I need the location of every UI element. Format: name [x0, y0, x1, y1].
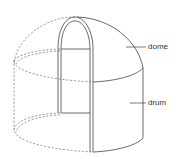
drum-bottom-hidden-ellipse [14, 113, 93, 152]
drum-top-front-arc [93, 68, 143, 82]
drum-bottom-front-arc [93, 138, 143, 152]
arch-inner [61, 21, 90, 152]
dome-drum-diagram [0, 0, 182, 159]
drum-bottom-hidden-ellipse-inner [16, 115, 60, 132]
drum-top-hidden-ellipse-inner [16, 51, 60, 64]
arch-outer [58, 17, 93, 152]
dome-hidden-outline [14, 17, 75, 62]
drum-label: drum [148, 99, 166, 107]
dome-label: dome [148, 43, 168, 51]
drum-top-hidden-ellipse [14, 49, 93, 82]
